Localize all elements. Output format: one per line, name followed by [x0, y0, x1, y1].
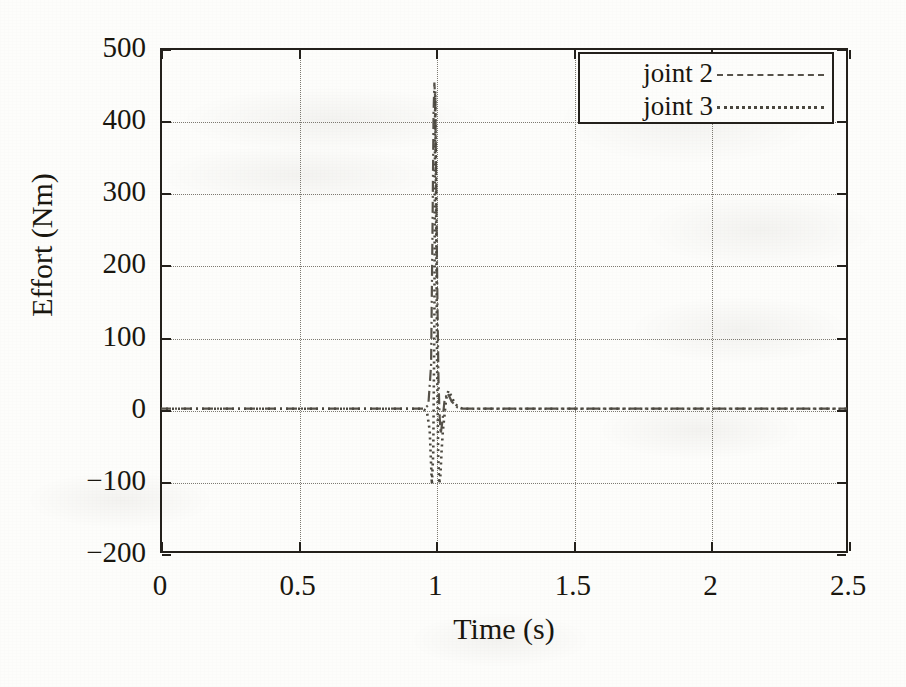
- legend-swatch-joint-3: [717, 106, 824, 109]
- tick-0: [837, 410, 846, 412]
- tick-100: [837, 338, 846, 340]
- legend-entry-joint-3: joint 3: [580, 90, 832, 123]
- tick-500: [837, 49, 846, 51]
- x-tick-label-1.5: 1.5: [513, 571, 633, 600]
- legend-swatch-joint-2: [717, 74, 824, 76]
- gridline-x-1.5: [575, 50, 576, 551]
- tick-400: [837, 121, 846, 123]
- tick-x-2.5: [849, 50, 851, 59]
- y-axis-title: Effort (Nm): [25, 115, 59, 375]
- legend-label-joint-2: joint 2: [588, 60, 717, 87]
- x-axis-title: Time (s): [160, 612, 848, 646]
- tick--200: [837, 554, 846, 556]
- tick-200: [162, 265, 171, 267]
- gridline-x-1: [437, 50, 438, 551]
- tick-300: [162, 193, 171, 195]
- tick--100: [162, 482, 171, 484]
- tick--200: [162, 554, 171, 556]
- y-tick-label--100: −100: [6, 466, 146, 495]
- tick-300: [837, 193, 846, 195]
- tick-x-1: [436, 50, 438, 59]
- gridline-y-200: [162, 266, 846, 267]
- gridline-y--100: [162, 483, 846, 484]
- x-tick-label-2.5: 2.5: [788, 571, 906, 600]
- tick-x-0.5: [299, 542, 301, 551]
- x-tick-label-1: 1: [375, 571, 495, 600]
- y-tick-label-0: 0: [6, 394, 146, 423]
- y-tick-label-500: 500: [6, 33, 146, 62]
- legend-entry-joint-2: joint 2: [580, 57, 832, 90]
- tick-x-1.5: [574, 542, 576, 551]
- x-tick-label-0: 0: [100, 571, 220, 600]
- chart-legend: joint 2 joint 3: [578, 52, 834, 124]
- y-tick-label--200: −200: [6, 538, 146, 567]
- tick-x-1.5: [574, 50, 576, 59]
- gridline-y-0: [162, 411, 846, 412]
- tick-x-2.5: [849, 542, 851, 551]
- tick-0: [162, 410, 171, 412]
- x-tick-label-2: 2: [650, 571, 770, 600]
- tick-x-0.5: [299, 50, 301, 59]
- gridline-x-2: [712, 50, 713, 551]
- gridline-x-0.5: [300, 50, 301, 551]
- effort-vs-time-chart: 5004003002001000−100−200 00.511.522.5 Ef…: [0, 0, 906, 687]
- tick-x-0: [161, 50, 163, 59]
- tick-400: [162, 121, 171, 123]
- tick-x-2: [711, 542, 713, 551]
- tick-x-1: [436, 542, 438, 551]
- tick--100: [837, 482, 846, 484]
- gridline-y-100: [162, 339, 846, 340]
- legend-label-joint-3: joint 3: [588, 93, 717, 120]
- tick-100: [162, 338, 171, 340]
- x-tick-label-0.5: 0.5: [238, 571, 358, 600]
- tick-500: [162, 49, 171, 51]
- tick-200: [837, 265, 846, 267]
- tick-x-0: [161, 542, 163, 551]
- gridline-y-300: [162, 194, 846, 195]
